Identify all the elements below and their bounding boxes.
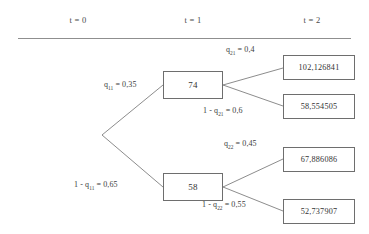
edge-label-up-down: 1 - q21 = 0,6 bbox=[203, 106, 243, 117]
leaf-t2-down-up: 67,886086 bbox=[283, 147, 355, 172]
column-header-t2: t = 2 bbox=[272, 15, 352, 25]
edge-up-down bbox=[223, 85, 283, 106]
column-header-t1: t = 1 bbox=[153, 15, 233, 25]
edge-label-up-up: q21 = 0,4 bbox=[226, 45, 255, 56]
leaf-t2-up-up-label: 102,126841 bbox=[299, 63, 340, 72]
leaf-t2-up-down-label: 58,554505 bbox=[301, 102, 338, 111]
node-t1-down-label: 58 bbox=[188, 182, 197, 192]
column-header-t0: t = 0 bbox=[38, 15, 118, 25]
edge-label-up-up-suffix: = 0,4 bbox=[236, 45, 255, 54]
edge-label-down-up-suffix: = 0,45 bbox=[234, 139, 257, 148]
edge-label-down-down-prefix: 1 - q bbox=[202, 200, 217, 209]
edge-label-root-down-prefix: 1 - q bbox=[74, 180, 89, 189]
edge-label-root-down: 1 - q11 = 0,65 bbox=[74, 180, 118, 191]
edge-label-down-up: q22 = 0,45 bbox=[224, 139, 257, 150]
node-t1-down: 58 bbox=[163, 173, 223, 201]
edge-up-up bbox=[223, 68, 283, 85]
leaf-t2-up-up: 102,126841 bbox=[283, 55, 355, 80]
edge-label-down-down-suffix: = 0,55 bbox=[223, 200, 246, 209]
edge-label-root-up: q11 = 0,35 bbox=[104, 80, 137, 91]
edge-down-up bbox=[223, 159, 283, 187]
edge-label-root-down-suffix: = 0,65 bbox=[94, 180, 117, 189]
leaf-t2-down-up-label: 67,886086 bbox=[301, 155, 338, 164]
edge-root-up bbox=[102, 85, 163, 135]
tree-diagram-figure: t = 0 t = 1 t = 2 74 58 102,126841 58,55… bbox=[0, 0, 369, 234]
leaf-t2-down-down-label: 52,737907 bbox=[301, 207, 338, 216]
edge-label-up-down-prefix: 1 - q bbox=[203, 106, 218, 115]
leaf-t2-down-down: 52,737907 bbox=[283, 199, 355, 224]
edge-label-up-down-suffix: = 0,6 bbox=[224, 106, 243, 115]
node-t1-up: 74 bbox=[163, 71, 223, 99]
edge-label-root-up-suffix: = 0,35 bbox=[113, 80, 136, 89]
edge-label-down-down: 1 - q22 = 0,55 bbox=[202, 200, 246, 211]
node-t1-up-label: 74 bbox=[188, 80, 197, 90]
leaf-t2-up-down: 58,554505 bbox=[283, 94, 355, 119]
